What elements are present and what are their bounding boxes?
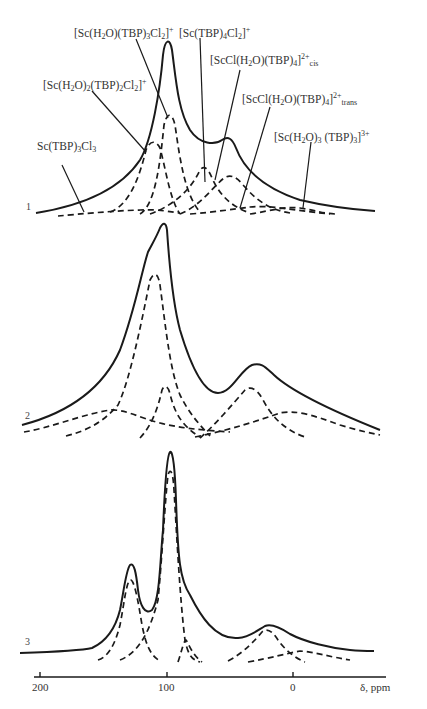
- spectrum-1: [36, 38, 375, 216]
- leader-c5: [215, 70, 240, 180]
- spectrum-1-component-c2: [110, 142, 180, 214]
- leader-c6: [240, 107, 270, 208]
- label-c5: [ScCl(H2O)(TBP)4]2+cis: [210, 51, 318, 70]
- spectrum-3: [20, 452, 374, 662]
- spectrum-3-component-c: [178, 640, 202, 662]
- spectrum-2-envelope: [22, 224, 380, 430]
- spectrum-1-component-c1: [58, 210, 180, 216]
- leader-c2: [92, 91, 146, 152]
- tick-label-100: 100: [158, 681, 175, 693]
- x-axis: [34, 672, 386, 677]
- tick-label-200: 200: [32, 681, 49, 693]
- label-c6: [ScCl(H2O)(TBP)4]2+trans: [242, 90, 357, 109]
- spectrum-3-envelope: [20, 452, 374, 653]
- spectrum-3-number: 3: [25, 636, 30, 647]
- leader-c4: [200, 38, 205, 182]
- tick-label-0: 0: [290, 681, 296, 693]
- spectrum-1-component-c6: [190, 207, 330, 214]
- spectrum-2-component-d: [200, 388, 305, 438]
- label-c1: Sc(TBP)3Cl3: [37, 140, 96, 156]
- spectrum-1-number: 1: [26, 201, 31, 212]
- label-c3: [Sc(H2O)(TBP)3Cl2]+: [74, 24, 174, 43]
- spectrum-2-number: 2: [25, 410, 30, 421]
- spectrum-3-component-a: [98, 580, 160, 661]
- leader-c7: [303, 142, 311, 208]
- spectrum-3-component-e: [248, 651, 350, 662]
- spectrum-1-component-c7: [250, 208, 335, 214]
- label-c7: [Sc(H2O)3 (TBP)3]3+: [274, 128, 370, 147]
- nmr-spectra-plot: [0, 0, 427, 709]
- label-c4: [Sc(TBP)4Cl2]+: [179, 24, 250, 43]
- label-c2: [Sc(H2O)2(TBP)2Cl2]+: [43, 76, 147, 95]
- x-axis-label: δ, ppm: [360, 681, 390, 693]
- spectrum-1-component-c4: [150, 168, 250, 214]
- spectrum-2: [22, 224, 380, 438]
